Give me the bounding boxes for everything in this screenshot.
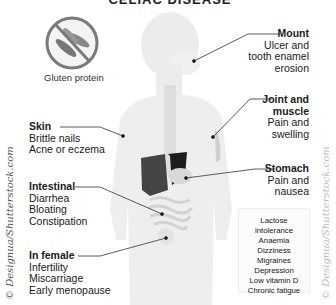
credit-left: © Designua/Shutterstock.com <box>4 146 15 300</box>
label-skin: Skin Brittle nails Acne or eczema <box>29 121 105 156</box>
liver-organ <box>141 154 168 196</box>
label-stomach: Stomach Pain and nausea <box>265 163 309 198</box>
head <box>141 12 200 95</box>
label-intestinal: Intestinal Diarrhea Bloating Constipatio… <box>29 181 87 227</box>
gluten-protein-label: Gluten protein <box>44 72 104 83</box>
label-in-female: In female Infertility Miscarriage Early … <box>29 250 111 296</box>
label-mount: Mount Ulcer and tooth enamel erosion <box>248 28 309 74</box>
other-symptoms-box: Lactose intolerance Anaemia Dizziness Mi… <box>238 208 310 293</box>
label-joint-muscle: Joint and muscle Pain and swelling <box>262 94 309 140</box>
credit-right: © Designua/Shutterstock.com <box>320 146 331 300</box>
gluten-protein-prohibited-icon <box>47 18 97 68</box>
